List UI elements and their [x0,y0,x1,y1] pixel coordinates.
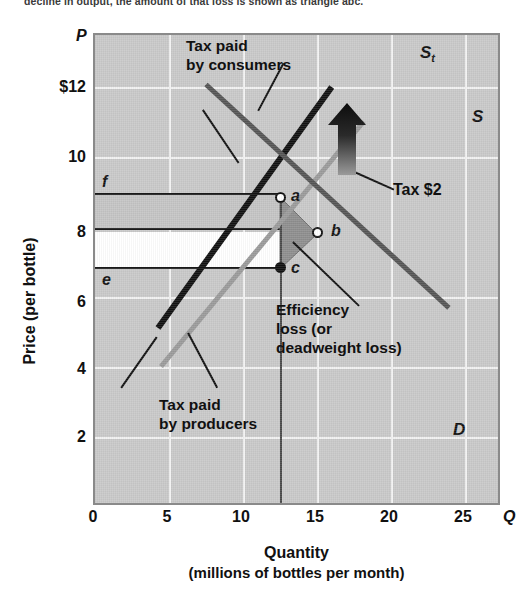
x-axis-title-main: Quantity [264,544,329,561]
price-axis-symbol: P [76,27,87,45]
curve-label-supply: S [472,107,483,127]
gridline-y-12 [95,87,498,89]
point-label-b: b [331,222,341,240]
x-tick-20: 20 [369,508,409,526]
x-tick-10: 10 [221,508,261,526]
curve-label-demand: D [453,420,465,440]
figure-caption: decline in output, the amount of that lo… [24,0,504,7]
point-label-f: f [102,173,107,191]
gridline-y-2 [95,437,498,439]
figure-container: decline in output, the amount of that lo… [0,0,527,607]
point-b [312,227,323,238]
x-tick-5: 5 [147,508,187,526]
gridline-x-20 [391,35,393,503]
point-label-a: a [291,187,300,205]
annotation-tax-paid-by-producers: Tax paid by producers [159,395,257,433]
y-tick-2: 2 [40,428,86,446]
curve-label-supply-with-tax: St [420,43,435,64]
x-axis-title: Quantity (millions of bottles per month) [93,543,500,583]
gridline-y-4 [95,367,498,369]
y-tick-12: $12 [40,78,86,96]
x-tick-25: 25 [443,508,483,526]
x-axis-subtitle: (millions of bottles per month) [93,563,500,583]
point-a [275,192,286,203]
annotation-tax-amount: Tax $2 [393,180,442,199]
annotation-tax-paid-by-consumers: Tax paid by consumers [186,36,291,74]
point-c [275,262,286,273]
gridline-y-10 [95,157,498,159]
y-tick-6: 6 [40,293,86,311]
point-label-c: c [291,259,300,277]
tax-shift-arrow-icon [328,103,366,175]
plot-area: a b c f e St S D [93,33,500,505]
point-label-e: e [102,271,111,289]
x-tick-0: 0 [73,508,113,526]
y-tick-8: 8 [40,223,86,241]
y-axis-title: Price (per bottle) [21,201,39,401]
leader-tax-producers-left [120,337,157,389]
y-tick-4: 4 [40,360,86,378]
x-tick-15: 15 [295,508,335,526]
y-tick-10: 10 [40,148,86,166]
annotation-efficiency-loss: Efficiency loss (or deadweight loss) [276,300,402,357]
leader-tax-consumers-left [202,109,239,163]
leader-tax-producers-right [187,333,218,388]
quantity-axis-symbol: Q [503,508,515,526]
